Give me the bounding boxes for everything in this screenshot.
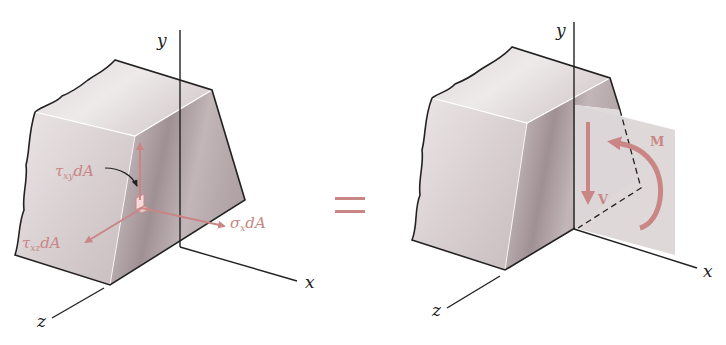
left-z-axis-label: z <box>36 311 47 331</box>
right-x-axis-label: x <box>703 261 713 281</box>
bending-moment-label: M <box>650 134 664 149</box>
left-y-axis-label: y <box>156 30 167 50</box>
right-z-axis-label: z <box>431 300 442 320</box>
tau-xy-label: τxydA <box>55 162 94 181</box>
left-figure: y x z τxydA τxzdA σxdA <box>15 30 315 331</box>
sigma-x-label: σxdA <box>230 214 266 233</box>
left-x-axis <box>180 247 297 281</box>
shear-force-label: V <box>597 192 609 207</box>
right-figure: y x z V M <box>412 20 713 320</box>
left-x-axis-label: x <box>305 272 315 292</box>
right-z-axis <box>447 276 500 308</box>
equals-sign <box>335 197 365 213</box>
left-z-axis <box>52 288 104 318</box>
equivalence-diagram: y x z τxydA τxzdA σxdA <box>0 0 726 345</box>
right-y-axis-label: y <box>555 20 566 40</box>
tau-xz-label: τxzdA <box>22 234 61 253</box>
